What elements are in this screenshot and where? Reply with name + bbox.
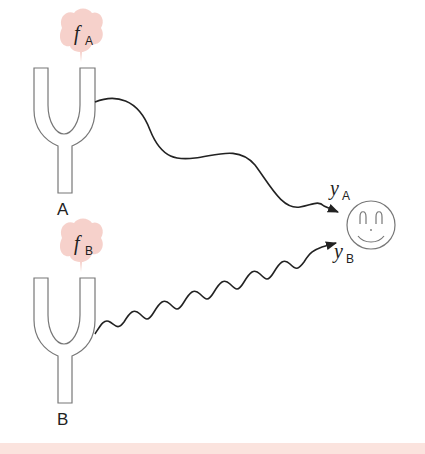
wave-b-path	[95, 243, 336, 334]
fork-b-group: f B B	[34, 219, 103, 430]
fork-a-group: f A A	[34, 9, 103, 220]
signal-b-subscript: B	[346, 252, 354, 266]
smiley-face-icon	[347, 201, 395, 249]
tuning-fork-b-icon	[34, 278, 95, 403]
frequency-bubble-b: f B	[60, 219, 103, 273]
frequency-a-subscript: A	[85, 34, 93, 48]
signal-a-subscript: A	[342, 189, 350, 203]
fork-a-label: A	[57, 200, 69, 219]
signal-a-symbol: y	[328, 177, 339, 200]
diagram-canvas: f A A f B B y A y B	[0, 0, 425, 454]
bottom-band	[0, 443, 425, 454]
frequency-b-subscript: B	[85, 244, 93, 258]
fork-b-label: B	[57, 410, 68, 429]
listener-group: y A y B	[328, 177, 395, 266]
wave-a-path	[95, 98, 338, 212]
frequency-bubble-a: f A	[60, 9, 103, 63]
signal-b-symbol: y	[332, 240, 343, 263]
tuning-fork-a-icon	[34, 68, 95, 193]
